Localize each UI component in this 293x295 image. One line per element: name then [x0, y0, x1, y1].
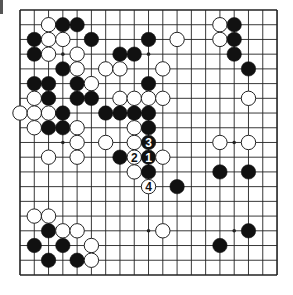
black-stone[interactable] — [56, 238, 70, 252]
stone-circle — [56, 62, 70, 76]
white-stone[interactable] — [84, 238, 98, 252]
white-stone[interactable] — [41, 106, 55, 120]
white-stone[interactable] — [241, 135, 255, 149]
black-stone[interactable] — [56, 62, 70, 76]
white-stone[interactable] — [113, 91, 127, 105]
white-stone[interactable] — [41, 209, 55, 223]
white-stone[interactable] — [41, 150, 55, 164]
stone-circle — [56, 106, 70, 120]
white-stone[interactable] — [41, 47, 55, 61]
white-stone[interactable] — [70, 62, 84, 76]
go-board[interactable]: 3214 — [0, 0, 293, 295]
white-stone[interactable] — [127, 165, 141, 179]
white-stone[interactable] — [113, 62, 127, 76]
white-stone[interactable] — [84, 76, 98, 90]
stone-circle — [127, 165, 141, 179]
star-point — [61, 141, 65, 145]
black-stone[interactable] — [127, 47, 141, 61]
stone-circle — [56, 121, 70, 135]
black-stone[interactable] — [70, 76, 84, 90]
black-stone[interactable] — [213, 238, 227, 252]
black-stone[interactable] — [41, 121, 55, 135]
white-stone[interactable] — [127, 121, 141, 135]
white-stone[interactable] — [127, 135, 141, 149]
black-stone[interactable] — [41, 253, 55, 267]
black-stone[interactable] — [70, 91, 84, 105]
black-stone[interactable] — [84, 32, 98, 46]
white-stone[interactable] — [41, 32, 55, 46]
black-stone[interactable] — [113, 150, 127, 164]
black-stone[interactable] — [56, 106, 70, 120]
black-stone[interactable] — [41, 91, 55, 105]
black-stone[interactable] — [141, 32, 155, 46]
white-stone[interactable] — [27, 106, 41, 120]
black-stone[interactable] — [41, 76, 55, 90]
stone-circle — [113, 106, 127, 120]
white-stone[interactable] — [27, 91, 41, 105]
black-stone[interactable] — [127, 106, 141, 120]
black-stone[interactable]: 3 — [141, 135, 155, 150]
white-stone[interactable]: 4 — [141, 179, 155, 194]
stone-circle — [98, 106, 112, 120]
black-stone[interactable] — [84, 91, 98, 105]
black-stone[interactable] — [141, 121, 155, 135]
black-stone[interactable] — [27, 76, 41, 90]
black-stone[interactable] — [227, 32, 241, 46]
white-stone[interactable] — [98, 135, 112, 149]
black-stone[interactable] — [27, 32, 41, 46]
stone-circle — [27, 121, 41, 135]
white-stone[interactable] — [84, 253, 98, 267]
white-stone[interactable] — [56, 32, 70, 46]
white-stone[interactable] — [70, 150, 84, 164]
white-stone[interactable] — [156, 62, 170, 76]
black-stone[interactable] — [70, 253, 84, 267]
black-stone[interactable] — [56, 121, 70, 135]
white-stone[interactable]: 2 — [127, 150, 141, 165]
black-stone[interactable] — [213, 165, 227, 179]
black-stone[interactable] — [227, 18, 241, 32]
black-stone[interactable] — [227, 47, 241, 61]
white-stone[interactable] — [156, 224, 170, 238]
white-stone[interactable] — [98, 62, 112, 76]
black-stone[interactable] — [141, 165, 155, 179]
white-stone[interactable] — [70, 224, 84, 238]
black-stone[interactable] — [98, 106, 112, 120]
black-stone[interactable] — [27, 47, 41, 61]
black-stone[interactable] — [56, 18, 70, 32]
white-stone[interactable] — [170, 32, 184, 46]
white-stone[interactable] — [141, 91, 155, 105]
black-stone[interactable] — [41, 224, 55, 238]
black-stone[interactable]: 1 — [141, 150, 155, 165]
white-stone[interactable] — [70, 121, 84, 135]
black-stone[interactable] — [241, 62, 255, 76]
white-stone[interactable] — [127, 91, 141, 105]
white-stone[interactable] — [41, 18, 55, 32]
black-stone[interactable] — [113, 106, 127, 120]
white-stone[interactable] — [213, 18, 227, 32]
white-stone[interactable] — [56, 224, 70, 238]
black-stone[interactable] — [27, 238, 41, 252]
black-stone[interactable] — [113, 47, 127, 61]
white-stone[interactable] — [70, 47, 84, 61]
stone-circle — [70, 150, 84, 164]
black-stone[interactable] — [241, 165, 255, 179]
stone-circle — [70, 121, 84, 135]
go-board-svg[interactable]: 3214 — [0, 0, 293, 295]
white-stone[interactable] — [241, 91, 255, 105]
white-stone[interactable] — [156, 91, 170, 105]
black-stone[interactable] — [141, 106, 155, 120]
white-stone[interactable] — [70, 135, 84, 149]
stone-circle — [41, 76, 55, 90]
white-stone[interactable] — [213, 32, 227, 46]
black-stone[interactable] — [170, 179, 184, 193]
black-stone[interactable] — [141, 76, 155, 90]
white-stone[interactable] — [27, 209, 41, 223]
stone-circle — [113, 150, 127, 164]
white-stone[interactable] — [156, 150, 170, 164]
black-stone[interactable] — [241, 224, 255, 238]
black-stone[interactable] — [70, 18, 84, 32]
white-stone[interactable] — [27, 121, 41, 135]
white-stone[interactable] — [213, 135, 227, 149]
white-stone[interactable] — [13, 106, 27, 120]
stone-circle — [213, 165, 227, 179]
